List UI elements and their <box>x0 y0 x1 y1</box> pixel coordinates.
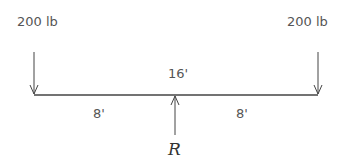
right-load-arrow <box>314 52 322 94</box>
left-load-label: 200 lb <box>17 14 58 29</box>
reaction-arrow <box>171 96 179 135</box>
right-segment-label: 8' <box>236 106 248 121</box>
reaction-label: R <box>168 139 181 159</box>
left-load-arrow <box>30 52 38 94</box>
right-load-label: 200 lb <box>287 14 328 29</box>
left-segment-label: 8' <box>93 106 105 121</box>
total-length-label: 16' <box>168 66 188 81</box>
